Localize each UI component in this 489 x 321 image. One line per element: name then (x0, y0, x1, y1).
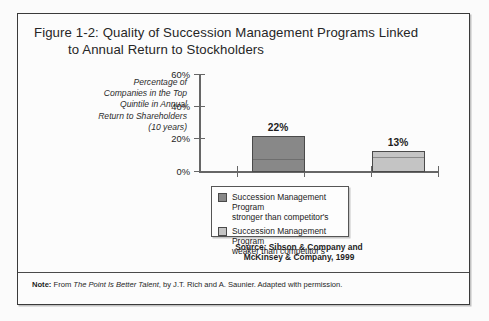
y-axis-label-line-5: (10 years) (70, 122, 187, 133)
footnote-post-title: , by J.T. Rich and A. Saunier. Adapted w… (159, 280, 343, 289)
y-tick-label-40: 40% (152, 101, 190, 112)
chart-legend: Succession Management Program stronger t… (211, 186, 349, 237)
bar-weaker-program[interactable] (372, 151, 425, 172)
legend-label-line-1: Succession Management Program (232, 192, 326, 212)
bar-inner-line (373, 157, 424, 158)
legend-item-label: Succession Management Program stronger t… (232, 192, 342, 222)
legend-swatch-light-icon (218, 227, 227, 236)
footnote-divider (18, 272, 469, 273)
source-line-2: McKinsey & Company, 1999 (214, 252, 384, 262)
x-tick-mark-4 (438, 166, 439, 177)
y-tick-label-60: 60% (152, 69, 190, 80)
y-tick-mark-20 (194, 138, 205, 139)
figure-screenshot: Figure 1-2: Quality of Succession Manage… (0, 0, 489, 321)
y-tick-mark-40 (194, 106, 205, 107)
bar-inner-line (253, 159, 304, 160)
footnote-pre-title: From (51, 280, 73, 289)
source-credit: Source: Sibson & Company and McKinsey & … (214, 242, 384, 263)
footnote-label: Note: (32, 280, 51, 289)
bar-chart-plot: Percentage of Companies in the Top Quint… (18, 14, 471, 306)
source-line-1: Source: Sibson & Company and (214, 242, 384, 252)
bar-value-label-2: 13% (371, 137, 425, 148)
y-tick-label-0: 0% (152, 166, 190, 177)
footnote-source-title: The Point Is Better Talent (73, 280, 158, 289)
y-tick-mark-0 (194, 171, 205, 172)
y-axis-label-line-2: Companies in the Top (70, 88, 187, 99)
legend-item-stronger[interactable]: Succession Management Program stronger t… (218, 192, 342, 222)
x-tick-mark-1 (237, 166, 238, 177)
figure-frame: Figure 1-2: Quality of Succession Manage… (17, 13, 470, 305)
legend-swatch-dark-icon (218, 193, 227, 202)
y-axis-label-line-4: Return to Shareholders (70, 111, 187, 122)
legend-label-line-2: stronger than competitor's (232, 212, 329, 222)
footnote: Note: From The Point Is Better Talent, b… (32, 280, 452, 290)
y-tick-label-20: 20% (152, 133, 190, 144)
y-tick-mark-60 (194, 74, 205, 75)
bar-stronger-program[interactable] (252, 136, 305, 172)
bar-value-label-1: 22% (251, 122, 305, 133)
y-axis-line (199, 74, 201, 172)
